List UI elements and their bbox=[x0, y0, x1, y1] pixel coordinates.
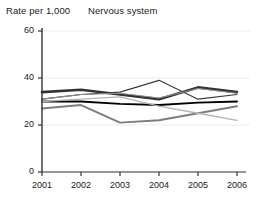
x-tick-label: 2003 bbox=[103, 180, 137, 190]
series-line-series-4-mid-gray bbox=[42, 105, 237, 123]
y-tick-label: 0 bbox=[10, 166, 34, 176]
y-tick-label: 20 bbox=[10, 119, 34, 129]
series-line-series-5-light-gray bbox=[42, 97, 237, 121]
chart-container: Rate per 1,000 Nervous system 0204060 20… bbox=[0, 0, 257, 211]
x-tick-label: 2001 bbox=[25, 180, 59, 190]
x-tick-label: 2005 bbox=[181, 180, 215, 190]
x-tick-label: 2002 bbox=[64, 180, 98, 190]
x-tick-label: 2004 bbox=[142, 180, 176, 190]
series-line-series-1-dark-thick bbox=[42, 87, 237, 99]
y-tick-label: 40 bbox=[10, 72, 34, 82]
x-tick-label: 2006 bbox=[220, 180, 254, 190]
y-tick-label: 60 bbox=[10, 25, 34, 35]
